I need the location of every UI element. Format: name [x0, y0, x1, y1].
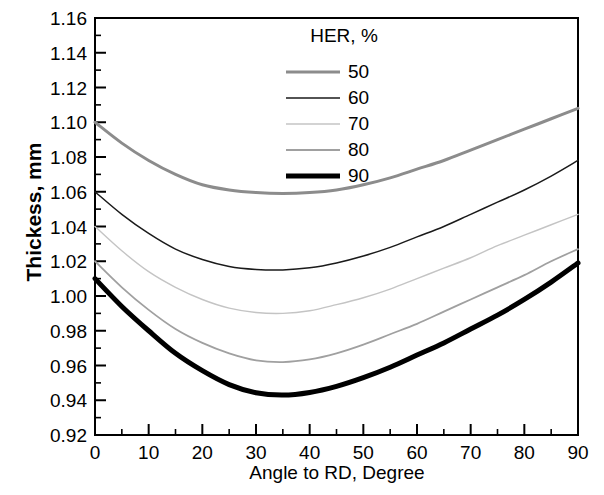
y-tick-label: 0.92 [50, 425, 87, 446]
x-tick-label: 20 [192, 442, 213, 463]
y-tick-label: 0.94 [50, 390, 87, 411]
x-tick-label: 50 [353, 442, 374, 463]
x-tick-label: 30 [245, 442, 266, 463]
x-tick-label: 40 [299, 442, 320, 463]
chart-legend: HER, %5060708090 [286, 25, 378, 186]
x-tick-label: 90 [567, 442, 588, 463]
plot-svg: 0.920.940.960.981.001.021.041.061.081.10… [0, 0, 604, 495]
y-tick-label: 1.04 [50, 217, 87, 238]
x-tick-label: 10 [138, 442, 159, 463]
y-tick-label: 1.14 [50, 43, 87, 64]
x-tick-label: 70 [460, 442, 481, 463]
x-tick-label: 0 [90, 442, 101, 463]
legend-label-70: 70 [348, 113, 369, 134]
legend-label-90: 90 [348, 165, 369, 186]
y-tick-label: 1.10 [50, 112, 87, 133]
series-line-50 [95, 108, 578, 193]
legend-title: HER, % [310, 25, 378, 46]
data-series-group [95, 108, 578, 395]
y-tick-label: 0.96 [50, 356, 87, 377]
x-tick-labels: 0102030405060708090 [90, 442, 589, 463]
y-tick-label: 1.16 [50, 8, 87, 29]
y-tick-labels: 0.920.940.960.981.001.021.041.061.081.10… [50, 8, 87, 446]
figure-container: Thickess, mm Angle to RD, Degree 0.920.9… [0, 0, 604, 495]
legend-label-50: 50 [348, 61, 369, 82]
y-major-ticks [95, 18, 106, 435]
plot-frame [95, 18, 578, 435]
y-tick-label: 1.08 [50, 147, 87, 168]
y-tick-label: 1.02 [50, 251, 87, 272]
x-tick-label: 60 [406, 442, 427, 463]
y-tick-label: 1.06 [50, 182, 87, 203]
y-tick-label: 0.98 [50, 321, 87, 342]
y-tick-label: 1.12 [50, 78, 87, 99]
legend-label-80: 80 [348, 139, 369, 160]
y-tick-label: 1.00 [50, 286, 87, 307]
legend-label-60: 60 [348, 87, 369, 108]
x-tick-label: 80 [514, 442, 535, 463]
series-line-70 [95, 214, 578, 313]
